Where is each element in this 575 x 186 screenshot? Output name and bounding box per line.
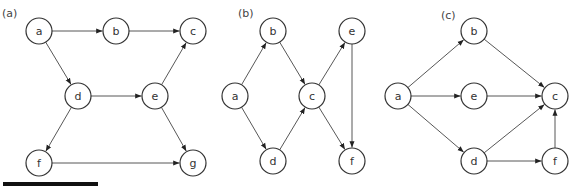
node-f: f bbox=[26, 150, 52, 176]
node-label: b bbox=[471, 25, 478, 38]
node-f: f bbox=[542, 148, 568, 174]
node-b: b bbox=[103, 18, 129, 44]
panel-a: (a)abcdefg bbox=[2, 7, 206, 176]
node-label: c bbox=[309, 90, 315, 103]
node-a: a bbox=[385, 83, 411, 109]
node-a: a bbox=[222, 83, 248, 109]
node-e: e bbox=[142, 83, 168, 109]
node-label: a bbox=[395, 90, 402, 103]
node-f: f bbox=[339, 148, 365, 174]
node-e: e bbox=[461, 83, 487, 109]
edge-a-b bbox=[408, 40, 464, 88]
edge-a-b bbox=[242, 43, 267, 85]
panel-b: (b)abcdef bbox=[222, 7, 365, 174]
node-label: e bbox=[349, 25, 356, 38]
edge-d-c bbox=[280, 108, 305, 150]
edge-a-d bbox=[242, 107, 267, 149]
node-d: d bbox=[65, 83, 91, 109]
edge-a-d bbox=[408, 104, 464, 152]
node-d: d bbox=[260, 148, 286, 174]
node-label: b bbox=[270, 25, 277, 38]
node-b: b bbox=[260, 18, 286, 44]
node-label: d bbox=[471, 155, 478, 168]
edge-e-g bbox=[161, 107, 186, 151]
edge-d-c bbox=[484, 104, 544, 152]
panel-label: (a) bbox=[2, 7, 17, 20]
edge-b-c bbox=[280, 42, 305, 84]
node-label: c bbox=[552, 90, 558, 103]
node-a: a bbox=[26, 18, 52, 44]
edge-c-e bbox=[319, 42, 345, 84]
node-label: b bbox=[113, 25, 120, 38]
panel-label: (c) bbox=[441, 9, 456, 22]
node-label: d bbox=[75, 90, 82, 103]
node-b: b bbox=[461, 18, 487, 44]
graph-diagram: (a)abcdefg (b)abcdef (c)abecdf bbox=[0, 0, 575, 186]
node-label: e bbox=[152, 90, 159, 103]
edge-b-c bbox=[484, 39, 544, 87]
edge-a-d bbox=[46, 42, 71, 84]
edge-d-f bbox=[46, 107, 72, 151]
scale-bar bbox=[3, 182, 98, 186]
node-label: a bbox=[232, 90, 239, 103]
node-label: c bbox=[190, 25, 196, 38]
edge-c-f bbox=[319, 107, 345, 149]
panel-c: (c)abecdf bbox=[385, 9, 568, 174]
node-c: c bbox=[542, 83, 568, 109]
node-label: e bbox=[471, 90, 478, 103]
node-label: g bbox=[190, 157, 197, 170]
node-label: a bbox=[36, 25, 43, 38]
node-c: c bbox=[299, 83, 325, 109]
panel-label: (b) bbox=[238, 7, 254, 20]
node-c: c bbox=[180, 18, 206, 44]
edge-e-c bbox=[162, 43, 187, 85]
node-g: g bbox=[180, 150, 206, 176]
node-e: e bbox=[339, 18, 365, 44]
node-d: d bbox=[461, 148, 487, 174]
node-label: d bbox=[270, 155, 277, 168]
